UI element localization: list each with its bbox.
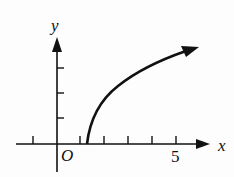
y-ticks: [57, 68, 64, 118]
curve-arrow-icon: [181, 46, 199, 57]
y-axis-label: y: [49, 16, 59, 35]
x-axis-arrow-icon: [196, 139, 210, 149]
y-axis-arrow-icon: [52, 37, 62, 52]
x-ticks: [33, 136, 176, 144]
graph: y x O 5: [0, 0, 234, 177]
x-axis-label: x: [217, 136, 226, 155]
curve: [87, 51, 186, 144]
x-tick-label-5: 5: [171, 147, 180, 166]
origin-label: O: [61, 146, 73, 165]
